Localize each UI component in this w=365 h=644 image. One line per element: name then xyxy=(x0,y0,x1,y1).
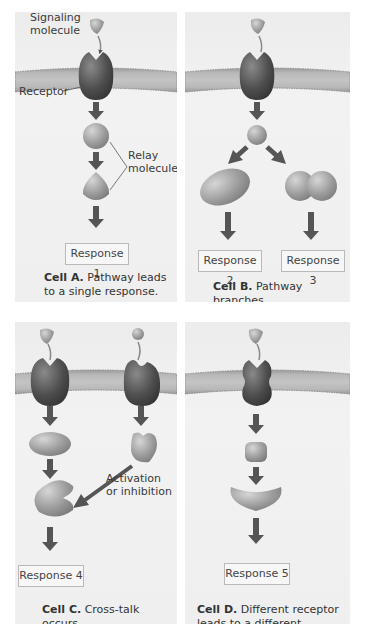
panel-cell-a: Signalingmolecule Receptor Relaymolecule… xyxy=(15,12,177,302)
caption-cell-d: Cell D. Different receptorleads to a dif… xyxy=(197,603,350,624)
caption-cell-b: Cell B. Pathway branches,leading to two … xyxy=(213,280,350,302)
relay-protein-icon xyxy=(195,161,256,212)
response-3-box: Response 3 xyxy=(281,250,345,272)
binding-arrow-icon xyxy=(259,36,262,52)
response-4-box: Response 4 xyxy=(18,565,84,587)
receptor-icon xyxy=(124,360,160,406)
relay-protein-icon xyxy=(245,442,267,462)
panel-cell-c: Activationor inhibition Response 4 Cell … xyxy=(15,322,177,624)
label-receptor: Receptor xyxy=(19,85,68,98)
signaling-molecule-icon xyxy=(249,328,263,344)
response-1-box: Response 1 xyxy=(65,243,129,265)
relay-protein-icon xyxy=(131,432,157,462)
signaling-molecule-icon xyxy=(251,18,265,34)
label-signaling-line1: Signaling xyxy=(30,12,81,24)
relay-protein-icon xyxy=(34,480,73,516)
label-signaling-line2: molecule xyxy=(30,24,80,37)
relay-molecule-icon xyxy=(83,172,109,200)
binding-arrow-icon xyxy=(98,36,101,52)
receptor-icon xyxy=(31,358,70,406)
relay-molecule-icon xyxy=(83,123,109,149)
caption-cell-a: Cell A. Pathway leadsto a single respons… xyxy=(44,271,167,299)
relay-protein-icon xyxy=(285,171,337,201)
caption-cell-c: Cell C. Cross-talk occursbetween two pat… xyxy=(42,603,177,624)
label-relay-line2: molecules xyxy=(128,162,177,175)
signaling-molecule-icon xyxy=(40,328,54,344)
signaling-molecule-icon xyxy=(132,328,144,340)
label-relay-line1: Relay xyxy=(128,149,158,162)
relay-molecule-icon xyxy=(247,125,267,145)
response-2-box: Response 2 xyxy=(198,250,262,272)
panel-cell-d: Response 5 Cell D. Different receptorlea… xyxy=(185,322,350,624)
receptor-icon xyxy=(240,52,275,100)
receptor-icon xyxy=(242,360,271,406)
signaling-molecule-icon xyxy=(90,18,104,34)
relay-protein-icon xyxy=(29,432,71,456)
relay-protein-icon xyxy=(231,487,282,511)
response-5-box: Response 5 xyxy=(224,563,290,585)
receptor-icon xyxy=(79,52,114,100)
panel-cell-b: Response 2 Response 3 Cell B. Pathway br… xyxy=(185,12,350,302)
label-activation-line1: Activation xyxy=(106,472,161,485)
label-activation-line2: or inhibition xyxy=(106,485,172,498)
